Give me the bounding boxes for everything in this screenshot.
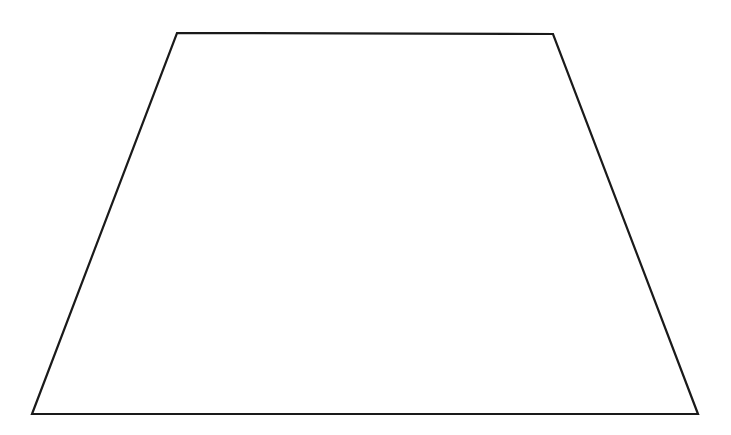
drawing-canvas (0, 0, 731, 435)
shape-canvas-svg (0, 0, 731, 435)
